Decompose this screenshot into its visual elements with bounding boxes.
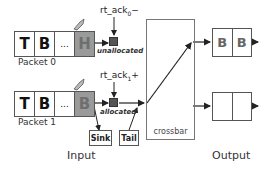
flit-body-highlighted: B [75, 92, 94, 116]
output-flit: B [233, 29, 252, 56]
output-flit [213, 93, 233, 120]
state-allocated: allocated [100, 108, 136, 116]
ack-suffix: + [131, 70, 139, 80]
ack-0-label: rt_ack0− [100, 5, 139, 17]
flit-body: B [35, 32, 55, 56]
packet-1-buffer: T B ... B [14, 91, 95, 117]
output-flit: B [213, 29, 233, 56]
packet-1-label: Packet 1 [18, 117, 56, 127]
flit-tail: T [15, 92, 35, 116]
state-unallocated: unallocated [97, 47, 143, 55]
flit-ellipsis: ... [55, 92, 75, 116]
flit-head: H [75, 32, 94, 56]
ack-1-label: rt_ack1+ [100, 70, 139, 82]
ack-base: rt_ack [100, 70, 127, 80]
output-flit [233, 93, 252, 120]
output-buffer-1 [212, 92, 252, 121]
sink-box: Sink [89, 130, 112, 146]
pencil-icon [74, 79, 84, 90]
flit-tail: T [15, 32, 35, 56]
crossbar-label: crossbar [147, 127, 194, 136]
vc-state-square-1 [109, 98, 118, 107]
pencil-icon [74, 19, 84, 30]
tail-box: Tail [119, 130, 139, 146]
ack-base: rt_ack [100, 5, 127, 15]
packet-0-label: Packet 0 [18, 57, 56, 67]
input-section-label: Input [67, 149, 95, 162]
output-section-label: Output [212, 149, 250, 162]
crossbar-box: crossbar [146, 19, 195, 140]
flit-ellipsis: ... [55, 32, 75, 56]
vc-state-square-0 [109, 37, 118, 46]
ack-suffix: − [131, 5, 139, 15]
packet-0-buffer: T B ... H [14, 31, 95, 57]
flit-body: B [35, 92, 55, 116]
output-buffer-0: B B [212, 28, 252, 57]
